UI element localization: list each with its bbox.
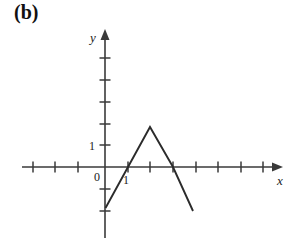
origin-label: 0 xyxy=(94,170,100,184)
y-axis-arrow-icon xyxy=(101,29,110,40)
y-axis-label: y xyxy=(88,30,96,45)
y-tick-label-1: 1 xyxy=(89,139,95,153)
figure-root: (b) xyxy=(0,0,296,252)
x-tick-label-1: 1 xyxy=(123,173,129,187)
x-axis-arrow-icon xyxy=(272,163,283,172)
plot-svg: y x 0 1 1 xyxy=(0,0,296,252)
x-axis-label: x xyxy=(276,173,283,188)
